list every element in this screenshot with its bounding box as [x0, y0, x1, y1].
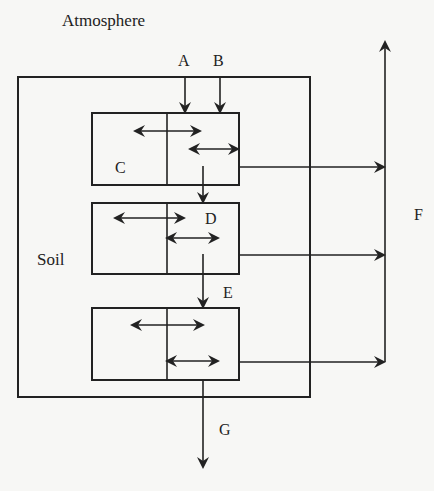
soil-boundary-box — [18, 77, 310, 397]
soil-atmosphere-flow-diagram: Atmosphere A B Soil C D E F G — [0, 0, 434, 491]
atmosphere-label: Atmosphere — [62, 11, 145, 30]
label-a: A — [178, 52, 190, 69]
label-e: E — [223, 284, 233, 301]
label-d: D — [205, 210, 217, 227]
compartment-layer-2 — [92, 203, 239, 274]
label-g: G — [219, 421, 231, 438]
compartment-layer-3 — [92, 308, 239, 380]
label-f: F — [414, 206, 423, 223]
label-c: C — [115, 159, 126, 176]
soil-label: Soil — [37, 250, 65, 269]
label-b: B — [213, 52, 224, 69]
